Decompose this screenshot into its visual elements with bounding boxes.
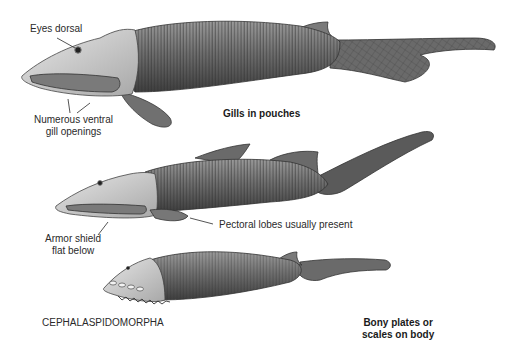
label-ventral-gill-line2: gill openings xyxy=(34,126,113,138)
middle-fish-eye xyxy=(98,181,103,186)
bottom-fish-tail xyxy=(298,259,390,281)
middle-fish-tail xyxy=(315,131,434,194)
label-pectoral-lobes: Pectoral lobes usually present xyxy=(219,219,352,231)
middle-fish-pectoral-lobe xyxy=(150,209,188,221)
top-fish-eye xyxy=(75,47,81,53)
label-bony-plates-line1: Bony plates or xyxy=(362,317,434,329)
label-eyes-dorsal: Eyes dorsal xyxy=(30,23,82,35)
label-ventral-gill-openings: Numerous ventral gill openings xyxy=(34,114,113,138)
label-armor-shield-line1: Armor shield xyxy=(45,233,101,245)
label-armor-shield: Armor shield flat below xyxy=(45,233,101,257)
label-armor-shield-line2: flat below xyxy=(45,245,101,257)
label-bony-plates: Bony plates or scales on body xyxy=(362,317,434,341)
leader-ventral-gill-1 xyxy=(68,99,70,113)
leader-ventral-gill-2 xyxy=(77,103,90,113)
class-label: CEPHALASPIDOMORPHA xyxy=(42,317,164,329)
top-fish-pectoral-fin xyxy=(120,92,171,127)
label-bony-plates-line2: scales on body xyxy=(362,329,434,341)
label-ventral-gill-line1: Numerous ventral xyxy=(34,114,113,126)
bottom-fish xyxy=(103,252,390,304)
bottom-fish-head-shield xyxy=(103,258,165,302)
bottom-fish-eye xyxy=(126,266,130,270)
leader-pectoral-lobes xyxy=(190,218,213,224)
leader-eyes-dorsal xyxy=(57,38,75,48)
illustration xyxy=(0,0,525,362)
middle-fish xyxy=(56,131,434,220)
label-gills-in-pouches: Gills in pouches xyxy=(223,108,300,120)
